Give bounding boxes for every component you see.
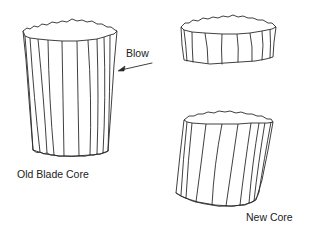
blow-arrow xyxy=(118,63,152,71)
new-core-label: New Core xyxy=(246,211,293,223)
blow-label: Blow xyxy=(126,47,149,59)
old-blade-core-label: Old Blade Core xyxy=(17,168,89,180)
new-core xyxy=(176,111,273,206)
old-blade-core xyxy=(23,19,117,157)
detached-platform-piece xyxy=(181,15,276,64)
blade-core-diagram xyxy=(0,0,313,236)
